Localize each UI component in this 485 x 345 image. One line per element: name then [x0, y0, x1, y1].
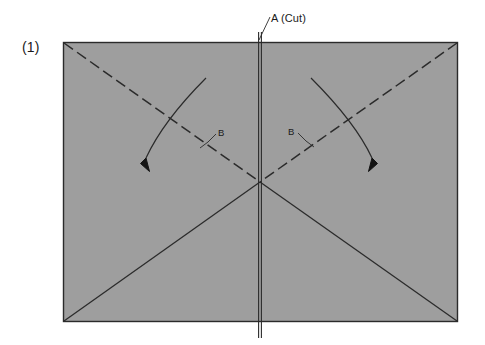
diagram-canvas [0, 0, 485, 345]
step-number-label: (1) [22, 40, 40, 54]
origami-diagram: (1) A (Cut) B B [0, 0, 485, 345]
fold-annotation-label-right: B [288, 127, 294, 137]
cut-annotation-label: A (Cut) [271, 13, 306, 24]
fold-annotation-label-left: B [218, 128, 224, 138]
cut-label-leader [259, 17, 270, 40]
